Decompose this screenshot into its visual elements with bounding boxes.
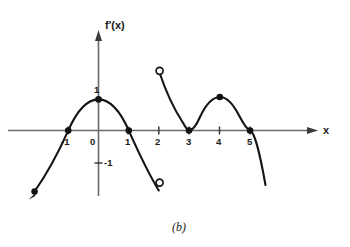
tick-label-y-1: 1	[94, 85, 99, 95]
figure-caption: (b)	[172, 221, 186, 233]
figure-container: f'(x) x -1 0 1 2 3 4 5 1 -1 (b)	[0, 0, 350, 247]
tick-label-x-4: 4	[216, 137, 221, 147]
open-points	[156, 67, 163, 186]
point-filled-neg1-0	[65, 127, 72, 134]
tick-label-x-2: 2	[155, 137, 160, 147]
y-axis	[95, 30, 102, 196]
y-axis-arrowhead	[95, 30, 102, 41]
point-filled-left-end	[31, 188, 37, 194]
tick-label-x-0: 0	[90, 137, 95, 147]
tick-label-x-neg1: -1	[61, 137, 69, 147]
point-filled-3-0	[186, 127, 193, 134]
y-axis-label: f'(x)	[105, 20, 125, 31]
left-branch-curve	[35, 99, 159, 191]
x-axis	[8, 127, 318, 134]
tick-label-y-neg1: -1	[104, 158, 112, 168]
point-filled-4-max	[217, 94, 224, 101]
point-filled-0-1	[95, 96, 102, 103]
point-open-2-upper	[156, 67, 163, 74]
x-axis-label: x	[323, 125, 329, 136]
tick-label-x-3: 3	[186, 137, 191, 147]
point-open-2-lower	[156, 179, 163, 186]
point-filled-5-0	[247, 127, 254, 134]
function-graph-plot	[0, 0, 350, 247]
tick-label-x-5: 5	[247, 137, 252, 147]
x-axis-arrowhead	[307, 127, 318, 134]
point-filled-1-0	[126, 127, 133, 134]
tick-label-x-1: 1	[125, 137, 130, 147]
